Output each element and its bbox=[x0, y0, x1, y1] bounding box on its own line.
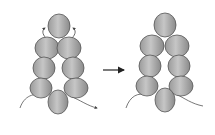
after-panel bbox=[126, 13, 203, 112]
bead bbox=[165, 35, 189, 57]
bead bbox=[136, 76, 158, 96]
bead-bottom bbox=[48, 90, 68, 114]
before-panel bbox=[20, 14, 97, 114]
bead bbox=[140, 35, 164, 57]
bead-top bbox=[154, 13, 176, 37]
bead-top bbox=[48, 14, 70, 38]
bead bbox=[35, 37, 59, 59]
pull-arrow-right-icon bbox=[72, 28, 75, 38]
bead bbox=[64, 78, 88, 98]
beading-diagram bbox=[0, 0, 215, 135]
bead bbox=[139, 55, 161, 77]
bead bbox=[57, 37, 81, 59]
bead bbox=[168, 55, 190, 77]
bead bbox=[30, 78, 52, 98]
bead-bottom bbox=[155, 88, 175, 112]
pull-arrow-left-icon bbox=[43, 28, 46, 38]
bead bbox=[33, 57, 55, 79]
bead bbox=[62, 57, 84, 79]
